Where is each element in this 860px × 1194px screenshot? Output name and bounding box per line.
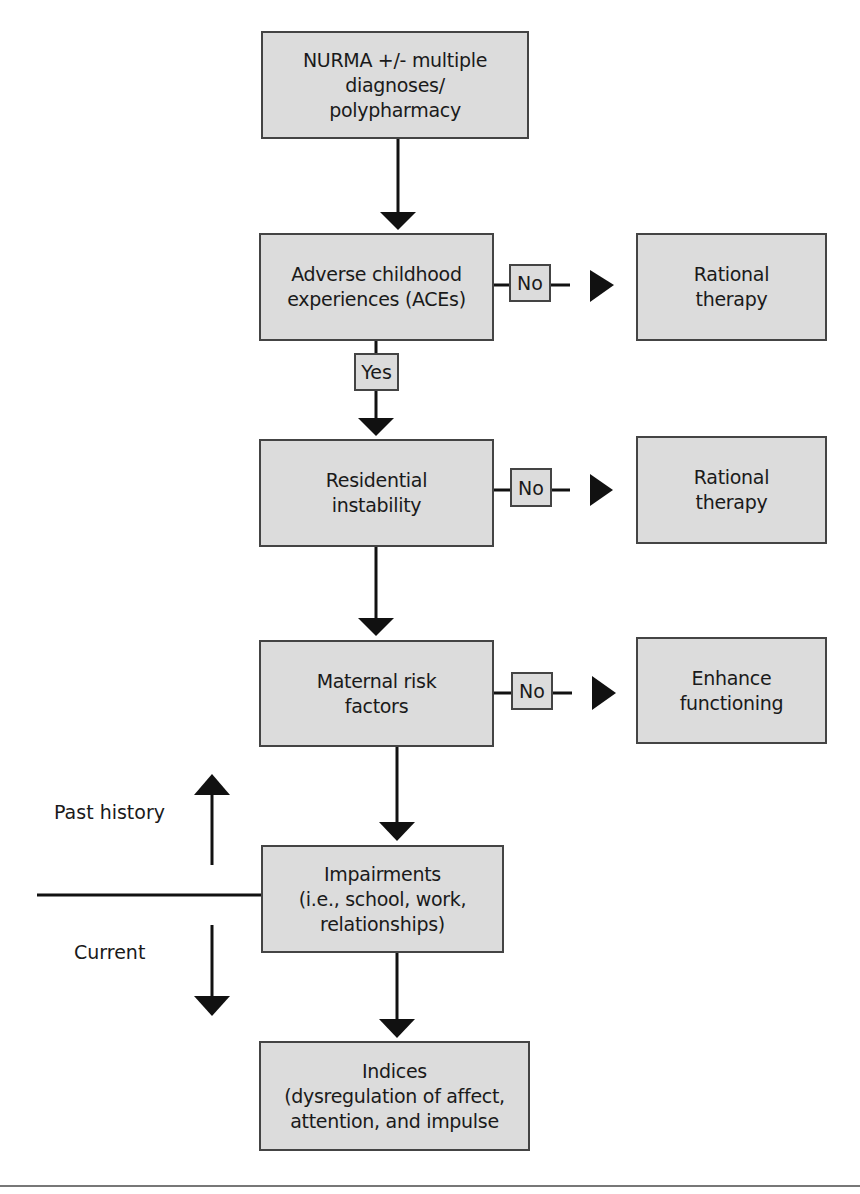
node-enhance-functioning: Enhance functioning (636, 637, 827, 744)
node-indices-text: Indices (dysregulation of affect, attent… (284, 1059, 505, 1134)
edge-label-aces-no: No (509, 264, 551, 302)
node-maternal: Maternal risk factors (259, 640, 494, 747)
node-enhance-text: Enhance functioning (680, 666, 784, 716)
edge-label-text: No (519, 680, 545, 702)
node-rational-therapy-2: Rational therapy (636, 436, 827, 544)
node-residential: Residential instability (259, 439, 494, 547)
node-rational1-text: Rational therapy (694, 262, 769, 312)
node-rational2-text: Rational therapy (694, 465, 769, 515)
node-aces: Adverse childhood experiences (ACEs) (259, 233, 494, 341)
node-aces-text: Adverse childhood experiences (ACEs) (287, 262, 466, 312)
node-indices: Indices (dysregulation of affect, attent… (259, 1041, 530, 1151)
edge-label-text: Yes (361, 361, 392, 383)
node-residential-text: Residential instability (326, 468, 427, 518)
connector-layer (0, 0, 860, 1194)
timeline-past-label: Past history (54, 801, 165, 823)
node-start-text: NURMA +/- multiple diagnoses/ polypharma… (303, 48, 487, 123)
edge-label-residential-no: No (510, 468, 552, 507)
edge-label-aces-yes: Yes (354, 353, 399, 391)
node-rational-therapy-1: Rational therapy (636, 233, 827, 341)
edge-label-text: No (518, 477, 544, 499)
node-start: NURMA +/- multiple diagnoses/ polypharma… (261, 31, 529, 139)
node-impairments: Impairments (i.e., school, work, relatio… (261, 845, 504, 953)
edge-label-text: No (517, 272, 543, 294)
node-maternal-text: Maternal risk factors (317, 669, 437, 719)
edge-label-maternal-no: No (511, 672, 553, 710)
node-impairments-text: Impairments (i.e., school, work, relatio… (299, 862, 467, 937)
timeline-current-label: Current (74, 941, 145, 963)
